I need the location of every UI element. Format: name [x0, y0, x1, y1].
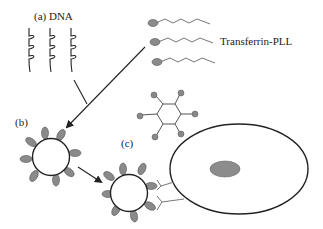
label-transferrin-pll: Transferrin-PLL [220, 35, 292, 47]
label-a-dna: (a) DNA [34, 10, 73, 22]
transfer-arrow-icon [78, 167, 101, 182]
diagram-canvas: (a) DNA Transferrin-PLL (b) (c) [0, 0, 323, 229]
label-c: (c) [121, 137, 133, 149]
label-b: (b) [15, 116, 28, 128]
dna-strands-icon [29, 28, 76, 72]
cell-icon [170, 124, 308, 214]
mixing-arrow-icon [67, 47, 145, 127]
complex-c-icon [102, 162, 157, 222]
nucleus-icon [210, 161, 240, 177]
transferrin-pll-icon [148, 19, 215, 66]
complex-b-icon [20, 127, 81, 186]
hexagon-molecule-icon [137, 90, 198, 140]
